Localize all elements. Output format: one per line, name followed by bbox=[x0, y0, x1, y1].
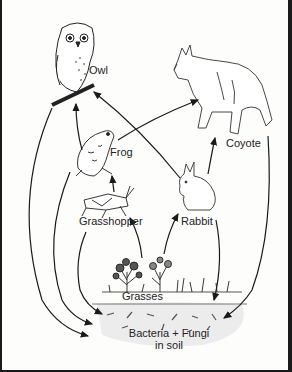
arrow-rabbit-to-soil bbox=[214, 220, 220, 300]
arrow-frog-to-coyote bbox=[118, 100, 198, 140]
food-web-diagram: Owl Coyote Frog Grasshopper Rabbit Grass… bbox=[0, 0, 292, 372]
coyote-label: Coyote bbox=[226, 137, 261, 149]
grasshopper-icon bbox=[82, 186, 134, 218]
grasshopper-label: Grasshopper bbox=[79, 215, 143, 227]
grasses-icon bbox=[102, 257, 242, 292]
arrow-grasshopper-to-frog bbox=[112, 176, 114, 192]
decomposers-label: Bacteria + Fungi in soil bbox=[114, 327, 224, 351]
arrow-coyote-to-soil bbox=[224, 136, 269, 318]
grasses-label: Grasses bbox=[122, 290, 163, 302]
frog-icon bbox=[76, 131, 114, 176]
coyote-icon bbox=[174, 45, 272, 134]
arrow-frog-to-owl bbox=[76, 104, 82, 150]
arrow-rabbit-to-coyote bbox=[208, 138, 215, 174]
rabbit-icon bbox=[180, 162, 216, 210]
decomposers-label-line1: Bacteria + Fungi bbox=[114, 327, 224, 339]
arrow-grasshopper-to-soil bbox=[78, 232, 102, 314]
food-web-drawing bbox=[2, 0, 292, 372]
frog-label: Frog bbox=[110, 146, 133, 158]
arrow-grasses-to-rabbit bbox=[164, 214, 178, 254]
owl-icon bbox=[52, 23, 94, 105]
rabbit-label: Rabbit bbox=[181, 215, 213, 227]
owl-label: Owl bbox=[89, 64, 108, 76]
decomposers-label-line2: in soil bbox=[114, 339, 224, 351]
